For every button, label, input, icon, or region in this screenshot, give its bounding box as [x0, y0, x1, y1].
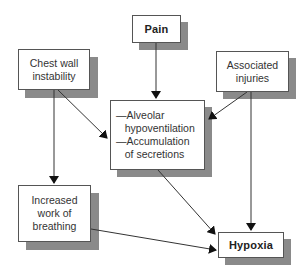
arrow-center-to-hypoxia — [158, 170, 215, 234]
node-pain-label: Pain — [144, 23, 168, 36]
node-alveolar-hypoventilation: —Alveolar hypoventilation —Accumulation … — [110, 100, 205, 170]
node-increased-work-of-breathing: Increased work of breathing — [18, 185, 91, 242]
node-hypoxia-label: Hypoxia — [229, 239, 273, 252]
arrow-chest-to-center — [58, 90, 107, 138]
flow-diagram: Pain Chest wall instability Associated i… — [0, 0, 308, 276]
node-work-label: Increased work of breathing — [31, 194, 77, 233]
node-associated-injuries: Associated injuries — [216, 51, 289, 92]
node-center-label: —Alveolar hypoventilation —Accumulation … — [116, 109, 195, 161]
arrow-work-to-hypoxia — [91, 229, 216, 250]
node-chest-label: Chest wall instability — [30, 57, 78, 83]
node-chest-wall-instability: Chest wall instability — [18, 49, 90, 90]
arrow-assoc-to-center — [209, 92, 247, 119]
node-hypoxia: Hypoxia — [218, 232, 284, 258]
node-assoc-label: Associated injuries — [227, 59, 278, 85]
node-pain: Pain — [132, 15, 181, 43]
